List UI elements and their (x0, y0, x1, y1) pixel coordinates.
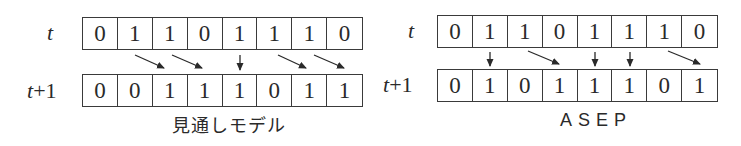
cell: 0 (438, 70, 473, 101)
cell: 1 (682, 70, 717, 101)
cell: 0 (647, 70, 682, 101)
row-label-t-plus-1: t+1 (383, 74, 413, 96)
asep-diagram: t 0 1 1 0 1 1 1 0 t+1 0 1 0 1 1 1 0 1 (0, 0, 741, 146)
state-row-t-plus-1: 0 1 0 1 1 1 0 1 (437, 69, 718, 102)
cell: 1 (612, 70, 647, 101)
cell: 1 (543, 70, 578, 101)
row-label-t1-suffix: +1 (389, 72, 412, 97)
cell: 0 (508, 70, 543, 101)
cell: 1 (473, 70, 508, 101)
hop-arrow-icon (528, 51, 559, 64)
cell: 1 (578, 70, 613, 101)
diagram-caption: ASEP (560, 111, 632, 129)
hop-arrow-icon (668, 51, 700, 64)
